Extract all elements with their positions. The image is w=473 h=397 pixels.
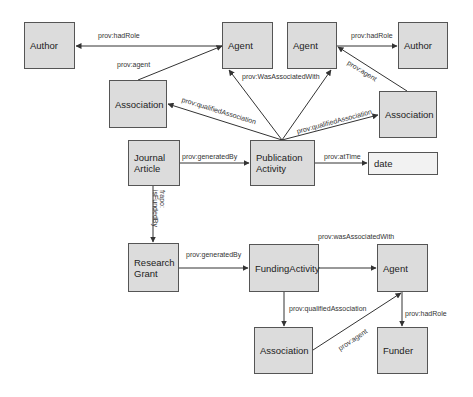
node-author-left[interactable]: Author — [24, 22, 75, 69]
node-funder[interactable]: Funder — [377, 327, 428, 374]
edge-label-generated-by-top: prov:generatedBy — [182, 153, 237, 160]
edge-label-generated-by-bottom: prov:generatedBy — [186, 251, 241, 258]
edge-label-was-associated-with-top: prov:WasAssociatedWith — [242, 73, 320, 80]
node-association-right[interactable]: Association — [379, 91, 437, 138]
node-label: Funder — [383, 345, 413, 356]
node-journal-article[interactable]: Journal Article — [128, 140, 180, 186]
node-label: Agent — [228, 40, 253, 51]
node-association-bottom[interactable]: Association — [254, 327, 313, 374]
edge-label-was-associated-with-bottom: prov:wasAssociatedWith — [318, 233, 394, 240]
node-label: Association — [385, 109, 434, 120]
node-label: Author — [30, 40, 58, 51]
edge-label-at-time: prov:atTime — [324, 153, 361, 160]
edge-agent-right — [338, 47, 407, 91]
node-label: Research Grant — [134, 257, 175, 279]
edge-was-associated-with-1 — [229, 70, 282, 140]
node-label: Author — [404, 40, 432, 51]
edge-label-had-role-right: prov:hadRole — [351, 32, 393, 39]
edge-label-had-role-left: prov:hadRole — [98, 32, 140, 39]
node-agent-top-2[interactable]: Agent — [287, 22, 337, 69]
edge-label-agent-left: prov:agent — [117, 61, 150, 68]
node-label: date — [374, 158, 393, 169]
edge-label-qualified-assoc-bottom: prov:qualifiedAssociation — [289, 305, 366, 312]
edge-label-had-role-bottom: prov:hadRole — [405, 310, 447, 317]
node-label: Agent — [383, 263, 408, 274]
node-research-grant[interactable]: Research Grant — [128, 243, 179, 292]
node-agent-top-1[interactable]: Agent — [222, 22, 273, 69]
node-date[interactable]: date — [368, 152, 438, 175]
node-label: Agent — [293, 40, 318, 51]
edge-label-is-funded-by: frapo: isFundedBy — [152, 190, 166, 227]
node-funding-activity[interactable]: FundingActivity — [249, 244, 319, 292]
node-author-right[interactable]: Author — [398, 22, 448, 69]
provenance-diagram: Author Agent Agent Author Association As… — [0, 0, 473, 397]
node-label: Association — [260, 345, 309, 356]
edge-agent-left — [138, 46, 222, 80]
node-association-left[interactable]: Association — [109, 80, 167, 128]
node-publication-activity[interactable]: Publication Activity — [250, 140, 315, 186]
node-agent-bottom[interactable]: Agent — [377, 244, 428, 292]
node-label: Association — [115, 99, 164, 110]
node-label: Publication Activity — [256, 152, 302, 174]
node-label: Journal Article — [134, 152, 165, 174]
node-label: FundingActivity — [255, 263, 319, 274]
